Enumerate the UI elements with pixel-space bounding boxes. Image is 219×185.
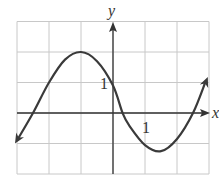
axes bbox=[17, 22, 210, 174]
function-graph: y x 1 1 bbox=[0, 0, 219, 185]
y-axis-label: y bbox=[106, 2, 116, 20]
x-tick-label: 1 bbox=[142, 119, 150, 136]
x-axis-label: x bbox=[211, 104, 219, 121]
y-tick-label: 1 bbox=[100, 75, 108, 92]
